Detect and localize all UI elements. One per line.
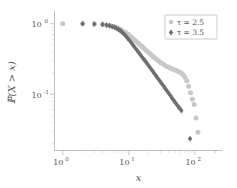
y-tick-label: 10-1 — [31, 89, 49, 100]
y-tick-label: 100 — [31, 18, 48, 29]
x-tick-mantissa: 10 — [185, 158, 195, 167]
x-tick-exponent: 0 — [65, 156, 69, 162]
y-tick-mantissa: 10 — [31, 20, 41, 29]
y-axis-tick-labels: 10010-1 — [31, 18, 49, 99]
y-tick-mantissa: 10 — [31, 91, 41, 100]
legend-marker-circle-icon — [169, 20, 174, 25]
data-point — [195, 130, 200, 135]
x-tick-exponent: 2 — [198, 156, 202, 162]
x-axis-ticks — [63, 151, 215, 156]
data-point — [184, 78, 189, 83]
x-tick-label: 101 — [119, 156, 135, 167]
data-point — [186, 84, 191, 89]
x-tick-exponent: 1 — [131, 156, 135, 162]
x-tick-mantissa: 10 — [53, 158, 63, 167]
y-tick-exponent: -1 — [44, 89, 49, 95]
data-point — [194, 116, 199, 121]
legend-label: τ = 2.5 — [177, 18, 204, 27]
data-point — [80, 21, 84, 27]
data-point — [190, 97, 195, 102]
y-axis-label: ℙ(X > x) — [6, 61, 17, 104]
x-tick-mantissa: 10 — [119, 158, 129, 167]
data-point — [188, 136, 192, 142]
figure-container: 100101102 10010-1 x ℙ(X > x) τ = 2.5τ = … — [0, 0, 237, 188]
x-tick-label: 100 — [53, 156, 69, 167]
x-tick-label: 102 — [185, 156, 201, 167]
x-axis-label: x — [136, 172, 142, 183]
x-axis-tick-labels: 100101102 — [53, 156, 201, 167]
data-point — [60, 21, 65, 26]
y-tick-exponent: 0 — [45, 18, 49, 24]
legend-label: τ = 3.5 — [177, 28, 204, 37]
data-point — [188, 90, 193, 95]
data-point — [92, 21, 96, 27]
log-log-ccdf-plot: 100101102 10010-1 x ℙ(X > x) τ = 2.5τ = … — [0, 0, 237, 188]
data-point — [192, 102, 197, 107]
legend[interactable]: τ = 2.5τ = 3.5 — [165, 15, 217, 39]
y-axis-ticks — [50, 24, 55, 144]
